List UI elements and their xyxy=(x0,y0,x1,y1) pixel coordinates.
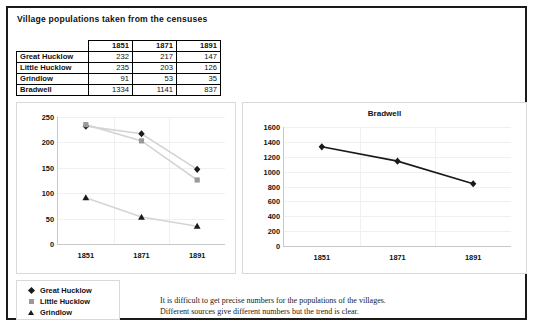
x-axis-tick-label: 1851 xyxy=(78,251,94,260)
table-cell: 1141 xyxy=(133,85,177,96)
x-axis-tick-label: 1891 xyxy=(465,253,481,262)
table-cell: 217 xyxy=(133,52,177,63)
villages-chart-panel: 050100150200250185118711891 xyxy=(16,102,236,274)
diamond-marker-icon xyxy=(319,143,325,150)
table-row-label: Little Hucklow xyxy=(17,63,89,74)
diamond-marker-icon xyxy=(25,288,37,293)
triangle-marker-icon xyxy=(25,310,37,315)
caption-line: Different sources give different numbers… xyxy=(160,307,500,318)
table-col-header: 1871 xyxy=(133,41,177,52)
table-cell: 91 xyxy=(89,74,133,85)
y-axis-tick-label: 100 xyxy=(42,189,54,198)
y-axis-tick-label: 0 xyxy=(276,242,280,251)
bradwell-chart-panel: Bradwell 0200400600800100012001400160018… xyxy=(242,102,527,274)
table-row: Little Hucklow 235 203 126 xyxy=(17,63,221,74)
caption-line: It is difficult to get precise numbers f… xyxy=(160,296,500,307)
square-marker-icon xyxy=(83,122,88,127)
square-marker-icon xyxy=(25,299,37,304)
table-cell: 147 xyxy=(177,52,221,63)
table-cell: 35 xyxy=(177,74,221,85)
triangle-marker-icon xyxy=(82,194,89,200)
x-axis-tick-label: 1871 xyxy=(133,251,149,260)
y-axis-tick-label: 250 xyxy=(42,113,54,122)
table-cell: 235 xyxy=(89,63,133,74)
table-row: Grindlow 91 53 35 xyxy=(17,74,221,85)
y-axis-tick-label: 1600 xyxy=(264,123,280,132)
diamond-marker-icon xyxy=(194,166,200,173)
bradwell-plot-area: 0200400600800100012001400160018511871189… xyxy=(283,127,511,247)
page-title: Village populations taken from the censu… xyxy=(17,14,207,24)
y-axis-tick-label: 1000 xyxy=(264,167,280,176)
series-layer xyxy=(284,127,511,246)
y-axis-tick-label: 150 xyxy=(42,163,54,172)
population-table: 1851 1871 1891 Great Hucklow 232 217 147… xyxy=(16,40,221,96)
y-axis-tick-label: 0 xyxy=(50,240,54,249)
table-corner-cell xyxy=(17,41,89,52)
table-cell: 837 xyxy=(177,85,221,96)
table-row: Bradwell 1334 1141 837 xyxy=(17,85,221,96)
diamond-marker-icon xyxy=(394,158,400,165)
table-header-row: 1851 1871 1891 xyxy=(17,41,221,52)
y-axis-tick-label: 200 xyxy=(42,138,54,147)
y-axis-tick-label: 400 xyxy=(268,212,280,221)
table-row-label: Grindlow xyxy=(17,74,89,85)
table-row-label: Great Hucklow xyxy=(17,52,89,63)
legend-item-label: Little Hucklow xyxy=(40,297,90,306)
legend-item: Great Hucklow xyxy=(25,285,119,296)
table-cell: 232 xyxy=(89,52,133,63)
legend-item: Grindlow xyxy=(25,307,119,318)
x-axis-tick-label: 1871 xyxy=(389,253,405,262)
table-cell: 126 xyxy=(177,63,221,74)
villages-plot-area: 050100150200250185118711891 xyxy=(57,117,225,245)
table-cell: 53 xyxy=(133,74,177,85)
square-marker-icon xyxy=(195,177,200,182)
table-col-header: 1891 xyxy=(177,41,221,52)
x-axis-tick-label: 1891 xyxy=(189,251,205,260)
legend-item: Little Hucklow xyxy=(25,296,119,307)
caption-block: It is difficult to get precise numbers f… xyxy=(160,296,500,317)
villages-chart-legend: Great Hucklow Little Hucklow Grindlow xyxy=(16,280,120,320)
series-layer xyxy=(58,117,225,244)
legend-item-label: Great Hucklow xyxy=(40,286,92,295)
diamond-marker-icon xyxy=(470,180,476,187)
legend-item-label: Grindlow xyxy=(40,308,72,317)
y-axis-tick-label: 1200 xyxy=(264,152,280,161)
y-axis-tick-label: 1400 xyxy=(264,137,280,146)
bradwell-chart-title: Bradwell xyxy=(243,109,526,118)
y-axis-tick-label: 200 xyxy=(268,227,280,236)
table-row: Great Hucklow 232 217 147 xyxy=(17,52,221,63)
table-col-header: 1851 xyxy=(89,41,133,52)
table-cell: 1334 xyxy=(89,85,133,96)
diamond-marker-icon xyxy=(138,130,144,137)
y-axis-tick-label: 600 xyxy=(268,197,280,206)
table-cell: 203 xyxy=(133,63,177,74)
y-axis-tick-label: 50 xyxy=(46,214,54,223)
series-line xyxy=(322,147,473,184)
worksheet-frame: Village populations taken from the censu… xyxy=(6,6,527,320)
square-marker-icon xyxy=(139,138,144,143)
series-line xyxy=(86,198,197,226)
x-axis-tick-label: 1851 xyxy=(314,253,330,262)
table-row-label: Bradwell xyxy=(17,85,89,96)
y-axis-tick-label: 800 xyxy=(268,182,280,191)
